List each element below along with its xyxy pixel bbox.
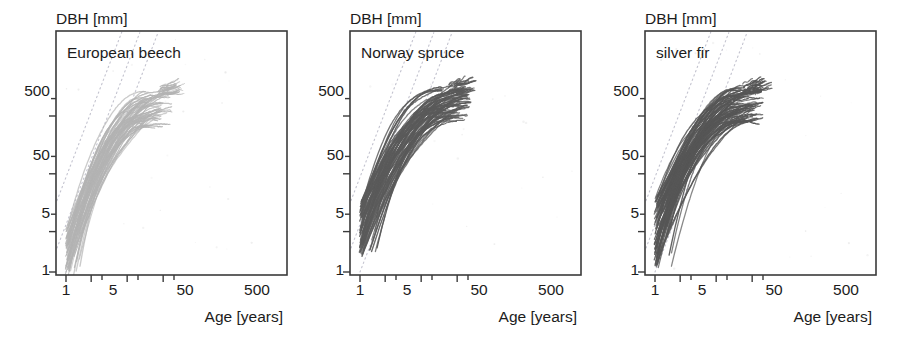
- xtick-label-1: 1: [651, 281, 660, 298]
- xtick-label-500: 500: [244, 281, 270, 298]
- panel-label: silver fir: [656, 44, 709, 61]
- xtick-label-1: 1: [356, 281, 365, 298]
- scan-specks: [66, 39, 253, 249]
- xtick-label-50: 50: [176, 281, 194, 298]
- x-axis-title: Age [years]: [499, 308, 577, 325]
- xtick-label-500: 500: [538, 281, 564, 298]
- panel-label: European beech: [67, 44, 181, 61]
- x-axis-title: Age [years]: [794, 308, 872, 325]
- data-curves: [65, 79, 186, 275]
- ytick-label-50: 50: [622, 146, 640, 163]
- x-axis-title: Age [years]: [205, 308, 283, 325]
- panel-european-beech: DBH [mm] European beech 1 5 50 500 1 5 5…: [0, 0, 295, 339]
- ytick-label-5: 5: [335, 204, 344, 221]
- xtick-label-50: 50: [765, 281, 783, 298]
- ytick-label-500: 500: [24, 82, 50, 99]
- ytick-label-1: 1: [335, 261, 344, 278]
- panel-plot-svg: DBH [mm] Norway spruce 1 5 50 500 1 5 50…: [294, 0, 589, 339]
- data-curves: [654, 77, 772, 268]
- ytick-label-5: 5: [630, 204, 639, 221]
- ytick-label-50: 50: [33, 146, 51, 163]
- data-curves: [359, 76, 476, 256]
- scan-scratch-line: [180, 92, 266, 93]
- xtick-label-5: 5: [698, 281, 707, 298]
- ytick-label-1: 1: [41, 261, 50, 278]
- xtick-label-50: 50: [470, 281, 488, 298]
- ytick-label-5: 5: [41, 204, 50, 221]
- figure-three-panel-dbh-age: DBH [mm] European beech 1 5 50 500 1 5 5…: [0, 0, 905, 339]
- y-axis-title: DBH [mm]: [645, 10, 716, 27]
- scan-scratch-line: [762, 92, 851, 93]
- panel-silver-fir: DBH [mm] silver fir 1 5 50 500 1 5 50 50…: [589, 0, 884, 339]
- ytick-label-1: 1: [630, 261, 639, 278]
- panel-label: Norway spruce: [361, 44, 464, 61]
- ytick-label-500: 500: [318, 82, 344, 99]
- xtick-label-5: 5: [403, 281, 412, 298]
- xtick-label-1: 1: [62, 281, 71, 298]
- panel-plot-svg: DBH [mm] silver fir 1 5 50 500 1 5 50 50…: [589, 0, 884, 339]
- panel-plot-svg: DBH [mm] European beech 1 5 50 500 1 5 5…: [0, 0, 295, 339]
- xtick-label-500: 500: [833, 281, 859, 298]
- y-axis-title: DBH [mm]: [56, 10, 127, 27]
- panel-norway-spruce: DBH [mm] Norway spruce 1 5 50 500 1 5 50…: [294, 0, 589, 339]
- xtick-label-5: 5: [109, 281, 118, 298]
- ytick-label-50: 50: [327, 146, 345, 163]
- y-axis-title: DBH [mm]: [350, 10, 421, 27]
- ytick-label-500: 500: [613, 82, 639, 99]
